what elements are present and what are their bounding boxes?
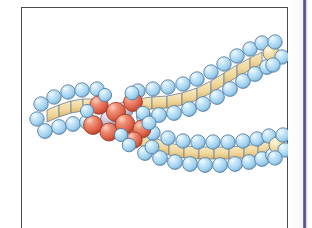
phospholipid-space-filling-diagram	[21, 7, 288, 228]
page-gutter	[289, 0, 303, 228]
molecule-svg	[21, 7, 288, 228]
polar-head-group	[80, 88, 151, 151]
upper-hydrocarbon-tail	[131, 35, 288, 125]
figure-page	[0, 0, 312, 228]
page-edge-shadow	[306, 0, 308, 228]
